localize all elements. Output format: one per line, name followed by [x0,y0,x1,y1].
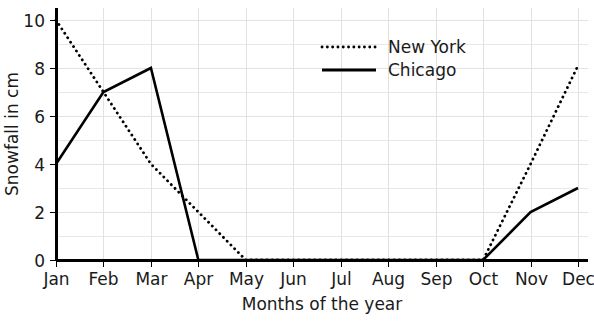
y-tick-label: 0 [34,251,45,271]
x-tick-label-feb: Feb [88,269,118,289]
y-tick-label: 6 [34,107,45,127]
snowfall-line-chart: 0246810 JanFebMarAprMayJunJulAugSepOctNo… [0,0,594,322]
x-axis-title: Months of the year [242,294,403,314]
x-tick-label-may: May [229,269,264,289]
y-tick-label: 2 [34,203,45,223]
y-tick-label: 10 [23,11,45,31]
legend-label-new-york: New York [388,37,466,57]
x-tick-label-sep: Sep [420,269,452,289]
y-axis-title: Snowfall in cm [2,72,22,196]
y-tick-label: 4 [34,155,45,175]
x-tick-label-apr: Apr [184,269,213,289]
x-tick-label-jul: Jul [330,269,352,289]
x-tick-label-jan: Jan [42,269,69,289]
x-tick-label-nov: Nov [515,269,548,289]
x-tick-label-mar: Mar [135,269,167,289]
chart-canvas: 0246810 JanFebMarAprMayJunJulAugSepOctNo… [0,0,594,322]
y-tick-label: 8 [34,59,45,79]
x-tick-label-aug: Aug [372,269,405,289]
x-tick-label-oct: Oct [469,269,499,289]
x-tick-label-jun: Jun [279,269,307,289]
x-tick-label-dec: Dec [562,269,594,289]
legend-label-chicago: Chicago [388,60,456,80]
